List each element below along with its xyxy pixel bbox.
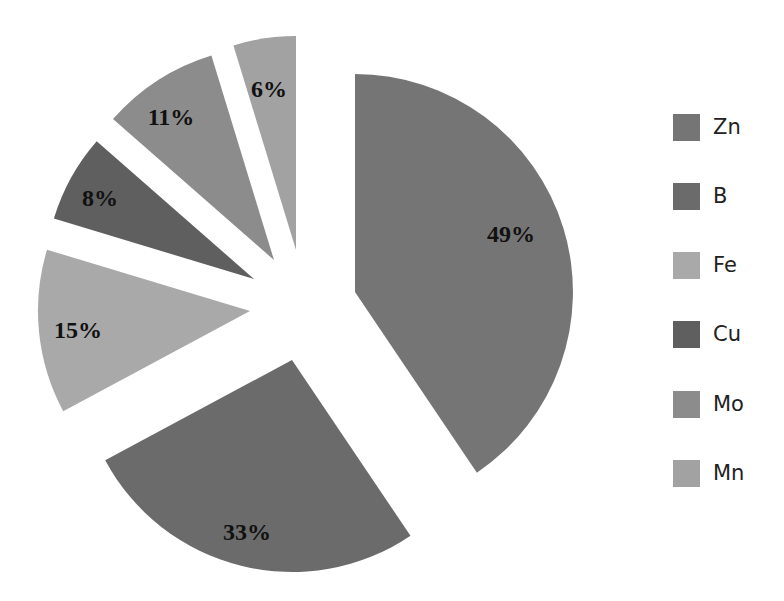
legend-item-zn: Zn [673, 113, 741, 141]
legend-swatch-zn [673, 114, 700, 141]
legend-swatch-mo [673, 391, 700, 418]
legend-item-b: B [673, 182, 727, 210]
legend-swatch-fe [673, 252, 700, 279]
slice-label-cu: 8% [82, 185, 118, 211]
legend-item-cu: Cu [673, 320, 741, 348]
legend-label-b: B [713, 182, 727, 210]
legend-label-fe: Fe [713, 251, 737, 279]
legend-item-mn: Mn [673, 459, 744, 487]
legend-label-cu: Cu [713, 320, 741, 348]
legend-label-mn: Mn [713, 459, 744, 487]
legend-item-fe: Fe [673, 251, 737, 279]
legend-swatch-mn [673, 460, 700, 487]
slice-label-fe: 15% [54, 317, 102, 343]
legend-label-mo: Mo [713, 390, 744, 418]
legend-label-zn: Zn [713, 113, 741, 141]
slice-label-zn: 49% [487, 221, 535, 247]
pie-slice-zn [355, 74, 573, 473]
slice-label-b: 33% [223, 519, 271, 545]
legend-swatch-cu [673, 321, 700, 348]
legend-swatch-b [673, 183, 700, 210]
pie-chart: 49%33%15%8%11%6% [0, 0, 784, 601]
pie-slices [38, 36, 573, 572]
legend-item-mo: Mo [673, 390, 744, 418]
slice-label-mn: 6% [251, 76, 287, 102]
slice-label-mo: 11% [148, 104, 195, 130]
